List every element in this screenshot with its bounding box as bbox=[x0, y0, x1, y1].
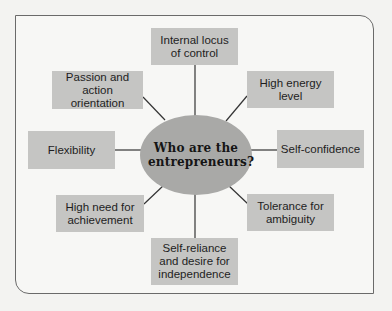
node-need-achievement: High need for achievement bbox=[56, 195, 144, 232]
connector-need-achievement bbox=[144, 185, 164, 204]
node-label: Passion and action orientation bbox=[55, 71, 140, 110]
node-label: High energy level bbox=[260, 77, 322, 103]
node-label: Internal locus of control bbox=[154, 34, 235, 60]
center-hub: Who are the entrepreneurs? bbox=[140, 115, 252, 195]
node-label: Self-reliance and desire for independenc… bbox=[154, 242, 235, 281]
node-self-confidence: Self-confidence bbox=[277, 130, 364, 168]
node-high-energy: High energy level bbox=[247, 71, 334, 108]
node-flexibility: Flexibility bbox=[28, 131, 115, 169]
connector-high-energy bbox=[226, 96, 247, 121]
node-label: Tolerance for ambiguity bbox=[256, 200, 326, 226]
node-passion-action: Passion and action orientation bbox=[52, 71, 143, 109]
node-label: Flexibility bbox=[48, 144, 95, 157]
center-label: Who are the entrepreneurs? bbox=[148, 141, 244, 169]
node-label: High need for achievement bbox=[65, 201, 135, 227]
connector-passion-action bbox=[143, 97, 165, 120]
node-label: Self-confidence bbox=[281, 143, 360, 156]
connector-tolerance-ambiguity bbox=[228, 185, 248, 204]
node-tolerance-ambiguity: Tolerance for ambiguity bbox=[247, 194, 334, 231]
node-internal-locus: Internal locus of control bbox=[151, 28, 238, 65]
node-self-reliance: Self-reliance and desire for independenc… bbox=[151, 238, 238, 285]
